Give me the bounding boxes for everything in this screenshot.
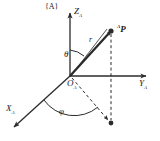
y-axis-label: YA <box>139 79 147 90</box>
point-p-text: P <box>120 24 126 34</box>
frame-label: {A} <box>45 3 58 11</box>
z-axis-label-subscript: A <box>79 13 82 18</box>
projection-point-marker <box>109 121 114 126</box>
origin-label-subscript: A <box>74 85 77 90</box>
x-axis-line <box>14 76 70 127</box>
x-axis-label: XA <box>6 104 15 115</box>
projection-line-azimuth <box>72 78 108 120</box>
theta-label: θ <box>64 50 68 59</box>
phi-arc <box>44 100 98 116</box>
diagram-canvas <box>0 0 160 141</box>
spherical-coordinate-figure: {A} ZA YA XA OA AP r θ φ <box>0 0 160 141</box>
point-p-marker <box>108 28 113 33</box>
y-axis-label-subscript: A <box>144 85 147 90</box>
theta-arc <box>70 50 84 56</box>
point-p-label: AP <box>117 24 126 34</box>
phi-label: φ <box>59 107 64 116</box>
origin-label: OA <box>67 79 77 90</box>
radius-label: r <box>89 36 92 44</box>
x-axis-label-subscript: A <box>12 110 15 115</box>
z-axis-label: ZA <box>74 7 82 18</box>
